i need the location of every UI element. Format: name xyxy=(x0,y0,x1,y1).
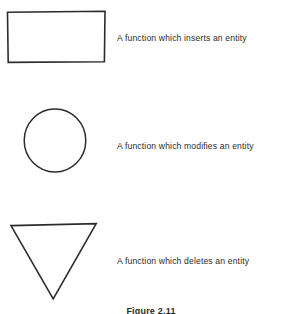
circle-shape xyxy=(24,109,86,172)
figure-caption: Figure 2.11 xyxy=(0,306,302,314)
figure-canvas: A function which inserts an entity A fun… xyxy=(0,0,302,314)
legend-label-delete: A function which deletes an entity xyxy=(117,257,297,266)
triangle-shape xyxy=(11,224,96,299)
legend-label-insert: A function which inserts an entity xyxy=(117,34,297,43)
legend-label-modify: A function which modifies an entity xyxy=(117,142,297,151)
rectangle-shape xyxy=(8,11,106,62)
shape-layer xyxy=(0,0,302,314)
